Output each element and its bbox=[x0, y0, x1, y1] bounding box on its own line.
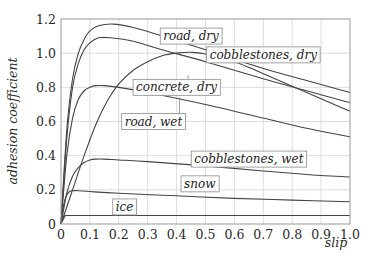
x-tick-label: 0.2 bbox=[109, 227, 129, 242]
label-road-wet: road, wet bbox=[122, 98, 186, 130]
y-tick-label: 0.2 bbox=[36, 182, 56, 197]
curve-label-text: snow bbox=[184, 177, 216, 191]
y-tick-label: 0.8 bbox=[36, 80, 56, 95]
y-axis-label: adhesion coefficient bbox=[5, 56, 20, 184]
y-tick-label: 1.2 bbox=[36, 12, 56, 27]
y-tick-label: 0 bbox=[48, 217, 56, 232]
label-cobblestones-dry: cobblestones, dry bbox=[207, 47, 320, 64]
x-tick-label: 0.6 bbox=[224, 227, 244, 242]
y-tick-label: 0.6 bbox=[36, 114, 56, 129]
x-tick-label: 0.8 bbox=[282, 227, 302, 242]
y-axis-ticks: 00.20.40.60.81.01.2 bbox=[36, 12, 56, 232]
x-axis-label: slip bbox=[325, 235, 347, 250]
x-tick-label: 0 bbox=[57, 227, 65, 242]
x-tick-label: 0.4 bbox=[167, 227, 187, 242]
curve-label-text: road, dry bbox=[163, 29, 219, 43]
y-tick-label: 1.0 bbox=[36, 46, 56, 61]
curve-label-text: road, wet bbox=[125, 115, 183, 129]
label-ice: ice bbox=[113, 199, 137, 216]
curve-label-text: concrete, dry bbox=[136, 80, 217, 94]
label-snow: snow bbox=[181, 176, 219, 193]
curve-label-text: cobblestones, dry bbox=[210, 48, 317, 62]
curve-label-text: cobblestones, wet bbox=[194, 152, 303, 166]
x-tick-label: 0.3 bbox=[138, 227, 158, 242]
adhesion-chart: 00.10.20.30.40.50.60.70.80.91.0 00.20.40… bbox=[0, 0, 378, 268]
x-axis-ticks: 00.10.20.30.40.50.60.70.80.91.0 bbox=[57, 227, 360, 242]
curve-label-text: ice bbox=[116, 200, 134, 214]
label-road-dry: road, dry bbox=[160, 28, 222, 44]
x-tick-label: 0.7 bbox=[253, 227, 273, 242]
y-tick-label: 0.4 bbox=[36, 148, 56, 163]
x-tick-label: 0.1 bbox=[80, 227, 100, 242]
label-cobblestones-wet: cobblestones, wet bbox=[191, 151, 306, 167]
x-tick-label: 0.5 bbox=[196, 227, 216, 242]
